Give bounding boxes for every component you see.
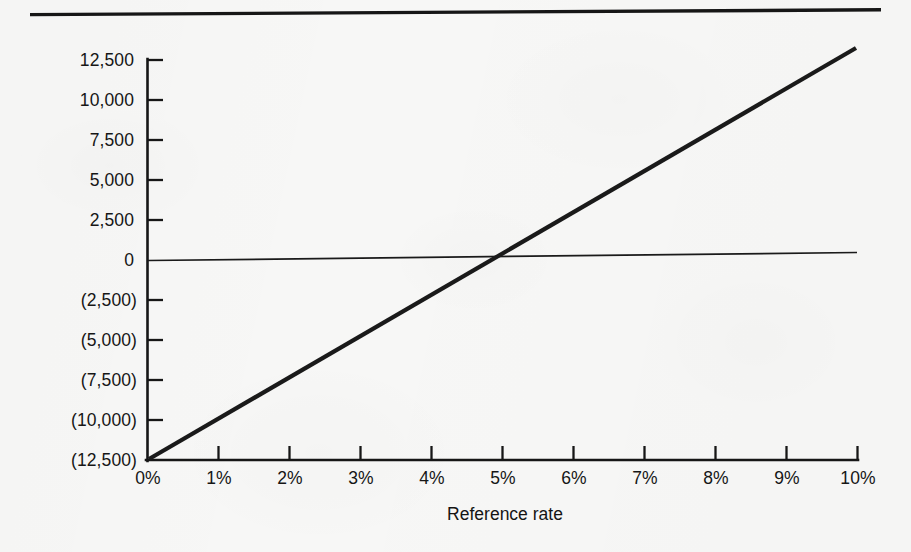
- x-tick-label-10pct: 10%: [818, 468, 898, 489]
- y-axis-ticks: [148, 60, 164, 420]
- y-tick-label-neg7500: (7,500): [0, 370, 137, 391]
- y-tick-label-10000: 10,000: [0, 90, 134, 111]
- y-tick-label-5000: 5,000: [0, 170, 134, 191]
- x-tick-label-8pct: 8%: [676, 468, 756, 489]
- y-tick-label-neg5000: (5,000): [0, 330, 137, 351]
- y-tick-label-2500: 2,500: [0, 210, 134, 231]
- x-tick-label-3pct: 3%: [321, 468, 401, 489]
- y-tick-label-12500: 12,500: [0, 50, 134, 71]
- y-tick-label-neg2500: (2,500): [0, 290, 137, 311]
- x-tick-label-4pct: 4%: [392, 468, 472, 489]
- x-tick-label-6pct: 6%: [534, 468, 614, 489]
- x-tick-label-9pct: 9%: [747, 468, 827, 489]
- x-tick-label-0pct: 0%: [108, 468, 188, 489]
- x-tick-label-1pct: 1%: [179, 468, 259, 489]
- x-axis-title: Reference rate: [355, 504, 655, 525]
- x-tick-label-5pct: 5%: [463, 468, 543, 489]
- y-tick-label-0: 0: [0, 250, 134, 271]
- x-axis-ticks: [219, 446, 858, 460]
- x-tick-label-7pct: 7%: [605, 468, 685, 489]
- chart-page: 12,500 10,000 7,500 5,000 2,500 0 (2,500…: [0, 0, 911, 552]
- x-tick-label-2pct: 2%: [250, 468, 330, 489]
- y-tick-label-7500: 7,500: [0, 130, 134, 151]
- y-tick-label-neg10000: (10,000): [0, 410, 137, 431]
